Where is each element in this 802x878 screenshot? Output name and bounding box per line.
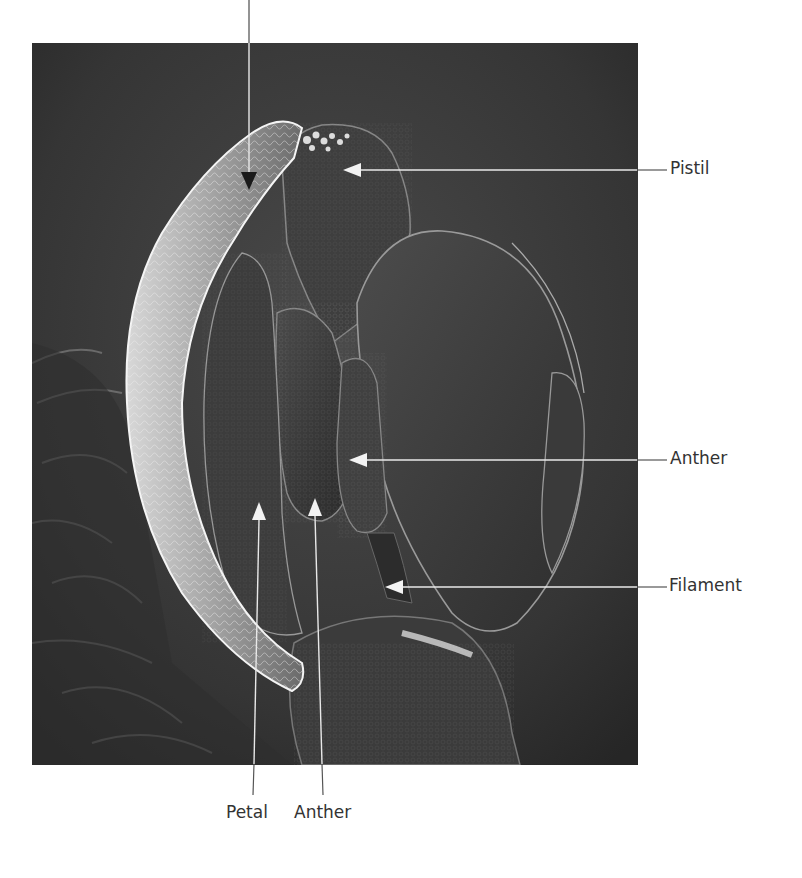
label-petal: Petal <box>226 804 268 821</box>
flower-diagram: Pistil Anther Filament Petal Anther <box>0 0 802 878</box>
label-anther-right: Anther <box>670 450 727 467</box>
sem-micrograph <box>32 43 638 765</box>
label-filament: Filament <box>669 577 742 594</box>
label-anther-bottom: Anther <box>294 804 351 821</box>
label-pistil: Pistil <box>670 160 710 177</box>
